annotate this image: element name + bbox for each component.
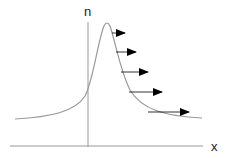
- horizontal-axis-label: x: [211, 139, 218, 154]
- diagram-canvas: n x: [0, 0, 230, 158]
- vertical-axis-label: n: [84, 4, 91, 19]
- peak-curve: [15, 23, 202, 119]
